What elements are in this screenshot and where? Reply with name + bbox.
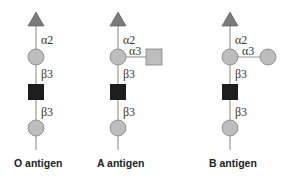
b-antigen-structure: [222, 12, 276, 150]
a-antigen-title: A antigen: [97, 157, 144, 169]
galactose-branch-circle-icon: [260, 49, 276, 65]
linkage-label: β3: [41, 68, 53, 80]
linkage-label: β3: [235, 106, 247, 118]
fucose-triangle-icon: [110, 12, 126, 26]
linkage-label: α2: [41, 34, 53, 46]
fucose-triangle-icon: [222, 12, 238, 26]
galactose-circle-icon: [28, 49, 44, 65]
glcnac-square-icon: [110, 84, 126, 100]
o-antigen-title: O antigen: [14, 157, 62, 169]
branch-linkage-label: α3: [129, 45, 141, 57]
galactose-circle-icon: [28, 120, 44, 136]
linkage-label: β3: [235, 68, 247, 80]
galactose-circle-icon: [110, 49, 126, 65]
linkage-label: β3: [41, 106, 53, 118]
glycan-diagram: [0, 0, 292, 178]
galnac-square-icon: [146, 49, 162, 65]
galactose-circle-icon: [222, 49, 238, 65]
branch-linkage-label: α3: [242, 45, 254, 57]
fucose-triangle-icon: [28, 12, 44, 26]
galactose-circle-icon: [110, 120, 126, 136]
linkage-label: β3: [123, 106, 135, 118]
linkage-label: β3: [123, 68, 135, 80]
glcnac-square-icon: [28, 84, 44, 100]
a-antigen-structure: [110, 12, 162, 150]
glcnac-square-icon: [222, 84, 238, 100]
galactose-circle-icon: [222, 120, 238, 136]
b-antigen-title: B antigen: [209, 157, 257, 169]
